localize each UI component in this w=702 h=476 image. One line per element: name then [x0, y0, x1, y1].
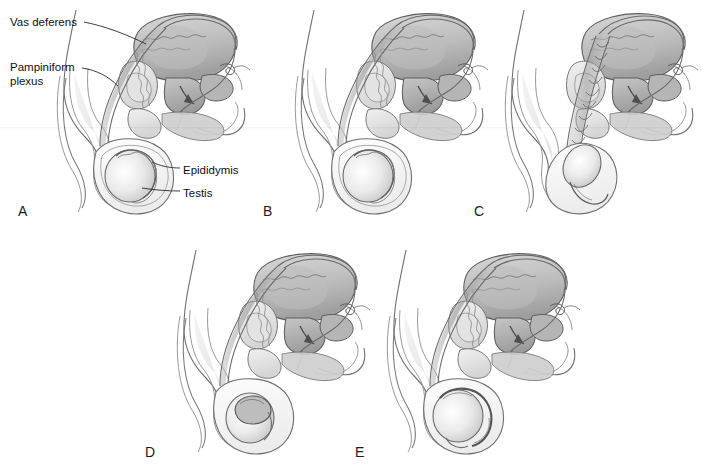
panel-letter-e: E	[355, 444, 365, 460]
leader-pampiniform-plexus	[82, 68, 118, 86]
callout-pampiniform-plexus: Pampiniform plexus	[10, 61, 75, 88]
panel-letter-a: A	[18, 203, 28, 219]
leader-testis	[142, 188, 180, 191]
panel-letter-b: B	[263, 203, 273, 219]
callout-epididymis: Epididymis	[183, 164, 239, 178]
testis-elevated	[546, 138, 617, 214]
panel-d	[150, 246, 378, 461]
panel-c-illustration	[478, 6, 702, 221]
leader-epididymis	[152, 162, 180, 168]
panel-e-illustration	[360, 246, 588, 461]
panel-e	[360, 246, 588, 461]
panel-letter-c: C	[474, 203, 484, 219]
panel-b-illustration	[268, 6, 496, 221]
panel-d-illustration	[150, 246, 378, 461]
panel-b	[268, 6, 496, 221]
panel-letter-d: D	[145, 444, 155, 460]
leader-vas-deferens	[84, 22, 146, 44]
callout-testis: Testis	[183, 187, 212, 201]
panel-a-leader-lines	[0, 0, 260, 215]
panel-c	[478, 6, 702, 221]
callout-vas-deferens: Vas deferens	[10, 16, 77, 30]
